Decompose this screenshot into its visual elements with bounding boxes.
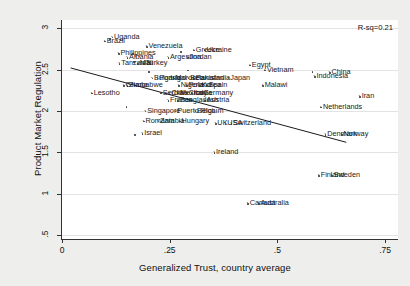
x-axis-label: Generalized Trust, country average — [30, 262, 400, 273]
data-point-label: Norway — [340, 130, 368, 138]
data-point-label: Malawi — [261, 81, 287, 89]
data-point-label: Japan — [227, 74, 250, 82]
y-tick-mark — [57, 111, 61, 112]
r-squared-annotation: R-sq=0.21 — [358, 23, 393, 32]
data-point-label: Vietnam — [263, 66, 293, 74]
x-tick-mark — [62, 239, 63, 243]
data-point — [133, 61, 135, 63]
x-tick-mark — [385, 239, 386, 243]
data-point-label: Ghana — [122, 81, 147, 89]
data-point-label: Austria — [203, 96, 229, 104]
y-tick-mark — [57, 152, 61, 153]
data-point-label: Turkey — [142, 59, 167, 67]
y-tick-label: 1.5 — [40, 140, 50, 162]
data-point-label: Hungary — [178, 117, 209, 125]
x-tick-label: 0 — [47, 245, 77, 255]
data-point-label: Belgium — [194, 107, 224, 115]
data-point-label: Ireland — [213, 148, 239, 156]
y-tick-mark — [57, 28, 61, 29]
data-point — [148, 71, 150, 73]
y-tick-label: 1 — [40, 182, 50, 204]
data-point — [180, 51, 182, 53]
y-tick-label: 2.5 — [40, 58, 50, 80]
x-tick-label: .5 — [262, 245, 292, 255]
x-tick-mark — [170, 239, 171, 243]
data-point-label: Australia — [257, 199, 289, 207]
y-tick-label: .5 — [40, 223, 50, 245]
x-axis-line — [61, 239, 398, 240]
data-point-label: Switzerland — [230, 119, 271, 127]
scatter-plot-figure: Product Market Regulation Generalized Tr… — [0, 0, 410, 286]
y-tick-mark — [57, 235, 61, 236]
x-tick-label: .25 — [155, 245, 185, 255]
y-tick-mark — [57, 194, 61, 195]
x-tick-label: .75 — [370, 245, 400, 255]
data-point-label: Iran — [358, 92, 374, 100]
data-point-label: Brazil — [103, 37, 125, 45]
data-point-label: Indonesia — [313, 72, 348, 80]
y-tick-label: 3 — [40, 16, 50, 38]
plot-area: UgandaBrazilVenezuelaGreeceUkrainePhilip… — [62, 20, 398, 239]
data-point-label: Netherlands — [319, 103, 362, 111]
x-tick-mark — [277, 239, 278, 243]
y-tick-mark — [57, 70, 61, 71]
data-point — [132, 53, 134, 55]
data-point — [134, 134, 136, 136]
data-point — [187, 70, 189, 72]
data-point-label: Lesotho — [90, 89, 119, 97]
data-point-label: Israel — [141, 129, 162, 137]
data-point-label: Sweden — [330, 171, 360, 179]
data-point — [109, 38, 111, 40]
data-point-label: Jordan — [186, 53, 212, 61]
y-tick-label: 2 — [40, 99, 50, 121]
